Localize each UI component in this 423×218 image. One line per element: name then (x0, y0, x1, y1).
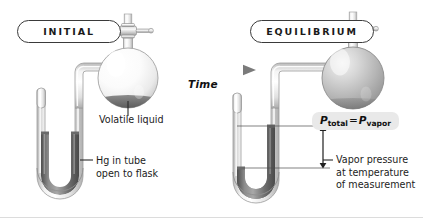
badge-initial: INITIAL (17, 20, 121, 43)
p-vapor-subscript: vapor (366, 119, 390, 128)
vapor-pressure-measure (237, 126, 333, 169)
label-vapor-pressure: Vapor pressure at temperature of measure… (336, 154, 415, 192)
figure-canvas: INITIAL EQUILIBRIUM Time Volatile liquid… (0, 0, 423, 218)
p-total-symbol: P (320, 114, 328, 126)
right-flask (320, 34, 386, 114)
right-mercury (237, 125, 275, 200)
p-total-subscript: total (328, 119, 348, 128)
left-flask (96, 36, 160, 112)
time-arrow (184, 65, 256, 75)
time-arrow-label: Time (188, 78, 218, 90)
right-connector-tube (271, 63, 330, 108)
left-stopcock[interactable] (120, 14, 154, 38)
pressure-equation-tag: Ptotal=Pvapor (312, 112, 399, 130)
left-mercury (41, 132, 79, 195)
label-volatile-liquid: Volatile liquid (99, 114, 164, 127)
badge-equilibrium: EQUILIBRIUM (250, 20, 374, 43)
label-hg-in-tube: Hg in tube open to flask (96, 155, 158, 180)
equals-sign: = (348, 114, 359, 126)
